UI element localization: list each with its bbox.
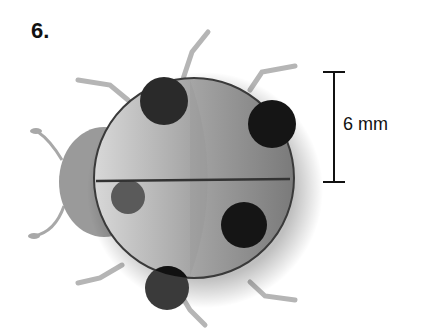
measurement-label: 6 mm xyxy=(343,114,388,135)
scale-bar xyxy=(323,72,345,182)
ladybug-illustration xyxy=(0,0,424,329)
problem-number: 6. xyxy=(31,18,49,44)
